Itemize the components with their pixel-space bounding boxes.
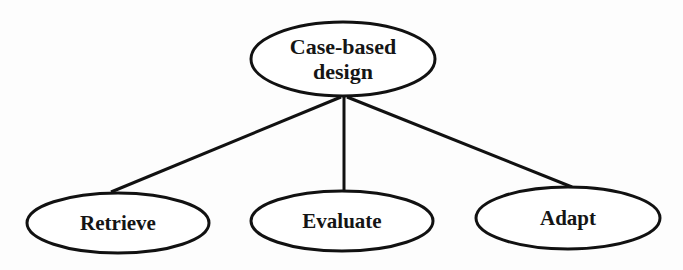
node-root-label: Case-based design [253, 34, 433, 84]
node-root-label-line2: design [253, 59, 433, 84]
diagram-canvas: Case-based design Retrieve Evaluate Adap… [0, 0, 683, 270]
node-root-label-line1: Case-based [253, 34, 433, 59]
node-retrieve-label: Retrieve [28, 211, 208, 235]
edge-root-to-retrieve [111, 97, 341, 192]
node-evaluate-label: Evaluate [252, 209, 432, 233]
node-adapt-label: Adapt [478, 206, 658, 230]
edge-root-to-adapt [347, 97, 572, 187]
